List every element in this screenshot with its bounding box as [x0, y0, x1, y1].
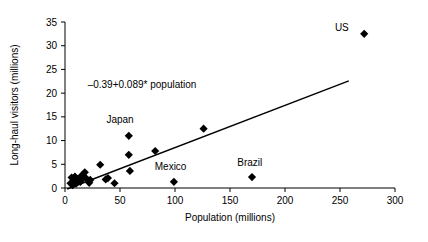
x-tick-label: 50 [114, 195, 126, 206]
data-point-marker [200, 125, 208, 133]
x-tick-label: 0 [62, 195, 68, 206]
x-tick-label: 100 [167, 195, 184, 206]
data-point-marker [125, 132, 133, 140]
label-us: US [335, 22, 349, 33]
data-point-marker [96, 161, 104, 169]
data-point-marker [360, 30, 368, 38]
y-tick-label: 25 [46, 64, 58, 75]
x-tick-label: 300 [387, 195, 404, 206]
regression-equation: –0.39+0.089* population [88, 79, 197, 90]
chart-canvas: 05101520253035050100150200250300Populati… [0, 0, 428, 242]
x-tick-label: 200 [277, 195, 294, 206]
x-tick-label: 150 [222, 195, 239, 206]
y-tick-label: 5 [51, 159, 57, 170]
y-tick-label: 35 [46, 17, 58, 28]
y-tick-label: 20 [46, 88, 58, 99]
regression-line [67, 81, 349, 189]
scatter-chart: 05101520253035050100150200250300Populati… [0, 0, 428, 242]
data-point-marker [110, 179, 118, 187]
data-point-marker [170, 178, 178, 186]
label-mexico: Mexico [155, 161, 187, 172]
x-tick-label: 250 [332, 195, 349, 206]
y-tick-label: 15 [46, 111, 58, 122]
data-point-marker [126, 167, 134, 175]
y-axis-title: Long-haul visitors (millions) [9, 44, 20, 165]
y-tick-label: 10 [46, 135, 58, 146]
x-axis-title: Population (millions) [185, 212, 275, 223]
data-point-marker [125, 151, 133, 159]
label-japan: Japan [106, 114, 133, 125]
data-point-marker [248, 173, 256, 181]
label-brazil: Brazil [237, 157, 262, 168]
y-tick-label: 0 [51, 183, 57, 194]
y-tick-label: 30 [46, 40, 58, 51]
